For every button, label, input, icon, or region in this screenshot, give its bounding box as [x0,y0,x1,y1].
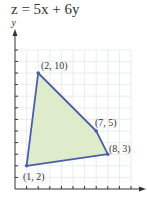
x-axis-arrow-icon [139,187,146,192]
vertex-label-8-3: (8, 3) [109,143,131,155]
vertex-label-7-5: (7, 5) [95,117,117,129]
y-axis-arrow-icon [13,29,18,36]
y-axis-label: y [11,17,17,28]
vertex-label-1-2: (1, 2) [23,171,45,183]
vertex-label-2-10: (2, 10) [41,60,68,72]
chart-plot: y (2, 10) (7, 5) (8, 3) (1, 2) [0,0,147,201]
